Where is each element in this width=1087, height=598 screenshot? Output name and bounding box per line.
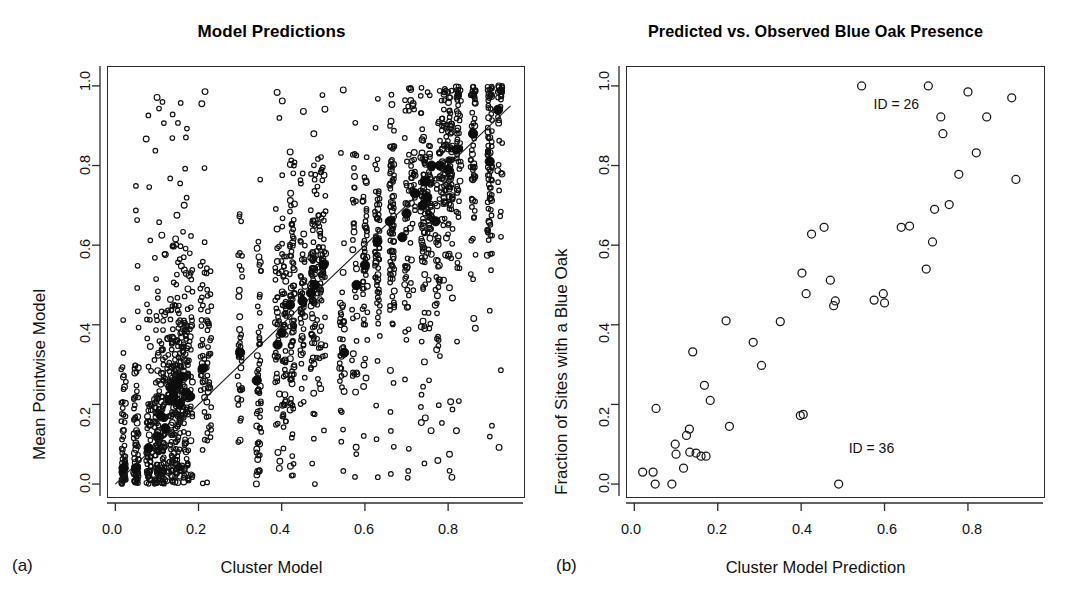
panel-b-xtick-0.0: 0.0 bbox=[616, 521, 646, 537]
panel-b-xtick-0.6: 0.6 bbox=[872, 521, 902, 537]
panel-a-xaxis-title: Cluster Model bbox=[0, 558, 543, 577]
panel-a-xtick-0.2: 0.2 bbox=[181, 521, 211, 537]
panel-a-xtick-0.8: 0.8 bbox=[433, 521, 463, 537]
panel-a-xtick-0.4: 0.4 bbox=[265, 521, 295, 537]
panel-b-ytick-0.6: 0.6 bbox=[596, 234, 612, 264]
panel-b-xaxis-title: Cluster Model Prediction bbox=[544, 558, 1087, 577]
panel-a-ytick-0.2: 0.2 bbox=[77, 402, 93, 432]
panel-a-xtick-0.0: 0.0 bbox=[97, 521, 127, 537]
panel-b-ytick-1.0: 1.0 bbox=[596, 66, 612, 96]
panel-b-ytick-0.4: 0.4 bbox=[596, 318, 612, 348]
panel-b-data-layer bbox=[544, 0, 1087, 598]
panel-b-letter: (b) bbox=[556, 556, 577, 576]
figure-two-panel-scatter: Model Predictions 1.0 0.8 0.6 0.4 0.2 0.… bbox=[0, 0, 1087, 598]
panel-b-xtick-0.2: 0.2 bbox=[702, 521, 732, 537]
panel-b-ytick-0.8: 0.8 bbox=[596, 150, 612, 180]
panel-b-xtick-0.4: 0.4 bbox=[787, 521, 817, 537]
annotation-id-36: ID = 36 bbox=[849, 440, 895, 456]
panel-a-ytick-0.8: 0.8 bbox=[77, 150, 93, 180]
panel-b-yaxis-title: Fraction of Sites with a Blue Oak bbox=[552, 248, 572, 495]
panel-b: Predicted vs. Observed Blue Oak Presence… bbox=[544, 0, 1087, 598]
panel-a-letter: (a) bbox=[12, 556, 33, 576]
panel-a-ytick-0.0: 0.0 bbox=[77, 468, 93, 498]
panel-a-xtick-0.6: 0.6 bbox=[349, 521, 379, 537]
panel-b-xtick-0.8: 0.8 bbox=[957, 521, 987, 537]
panel-a: Model Predictions 1.0 0.8 0.6 0.4 0.2 0.… bbox=[0, 0, 543, 598]
annotation-id-26: ID = 26 bbox=[874, 96, 920, 112]
panel-a-ytick-0.6: 0.6 bbox=[77, 234, 93, 264]
panel-a-ytick-0.4: 0.4 bbox=[77, 318, 93, 348]
panel-a-ytick-1.0: 1.0 bbox=[77, 66, 93, 96]
panel-a-yaxis-title: Mean Pointwise Model bbox=[30, 289, 50, 460]
panel-b-ytick-0.0: 0.0 bbox=[596, 468, 612, 498]
panel-b-ytick-0.2: 0.2 bbox=[596, 402, 612, 432]
